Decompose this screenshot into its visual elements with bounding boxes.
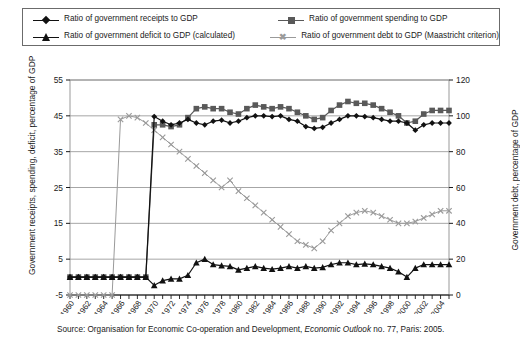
legend-item-spending: Ratio of government spending to GDP [278, 11, 447, 29]
x-tick-label: 1990 [311, 299, 329, 314]
source-note: Source: Organisation for Economic Co-ope… [57, 325, 444, 334]
y-right-tick-label: 120 [456, 75, 470, 85]
source-suffix: no. 77, Paris: 2005. [371, 325, 444, 334]
x-tick-label: 1986 [278, 299, 296, 314]
y-left-tick-labels: -551525354555 [54, 75, 64, 300]
y-left-tick-label: -5 [56, 290, 64, 300]
x-tick-label: 1980 [227, 299, 245, 314]
y-axis-right-title-text: Government debt, percentage of GDP [510, 109, 520, 250]
x-tick-label: 1992 [328, 299, 346, 314]
x-tick-marks [70, 295, 449, 299]
legend-label-debt: Ratio of government debt to GDP (Maastri… [301, 32, 499, 41]
x-tick-label: 2000 [395, 299, 413, 314]
legend-row-2: Ratio of government deficit to GDP (calc… [23, 28, 499, 46]
chart-figure: Ratio of government receipts to GDP Rati… [0, 0, 520, 347]
legend-item-receipts: Ratio of government receipts to GDP [33, 11, 278, 29]
chart-svg: -551525354555 020406080100120 1960196219… [0, 52, 520, 314]
x-tick-label: 1976 [193, 299, 211, 314]
x-tick-label: 1966 [109, 299, 127, 314]
x-tick-label: 1994 [345, 299, 363, 314]
y-right-tick-label: 80 [456, 147, 466, 157]
diamond-marker-icon [33, 15, 59, 25]
legend-label-spending: Ratio of government spending to GDP [309, 15, 447, 24]
y-right-tick-label: 40 [456, 218, 466, 228]
x-tick-label: 1968 [126, 299, 144, 314]
y-left-tick-marks [66, 80, 70, 295]
y-right-tick-label: 20 [456, 254, 466, 264]
y-right-tick-labels: 020406080100120 [456, 75, 470, 300]
y-left-tick-label: 35 [54, 147, 64, 157]
x-tick-label: 1964 [92, 299, 110, 314]
legend-row-1: Ratio of government receipts to GDP Rati… [23, 11, 499, 29]
square-marker-icon [278, 15, 304, 25]
x-tick-labels: 1960196219641966196819701972197419761978… [59, 299, 447, 314]
x-tick-label: 1988 [294, 299, 312, 314]
series-square [67, 99, 452, 280]
y-left-tick-label: 45 [54, 111, 64, 121]
x-marker-icon: ✖ [270, 32, 296, 42]
x-tick-label: 2004 [429, 299, 447, 314]
x-tick-label: 1970 [143, 299, 161, 314]
x-tick-label: 1996 [362, 299, 380, 314]
x-tick-label: 1972 [160, 299, 178, 314]
x-tick-label: 1962 [75, 299, 93, 314]
legend-label-deficit: Ratio of government deficit to GDP (calc… [64, 32, 235, 41]
legend-label-receipts: Ratio of government receipts to GDP [64, 15, 198, 24]
series-diamond [67, 113, 452, 280]
legend-item-deficit: Ratio of government deficit to GDP (calc… [33, 28, 270, 46]
y-axis-right-title: Government debt, percentage of GDP [510, 85, 520, 275]
x-tick-label: 1982 [244, 299, 262, 314]
x-tick-label: 1960 [59, 299, 77, 314]
y-left-tick-label: 15 [54, 218, 64, 228]
y-left-tick-label: 25 [54, 183, 64, 193]
chart-legend: Ratio of government receipts to GDP Rati… [22, 8, 500, 46]
x-tick-label: 1998 [379, 299, 397, 314]
data-series-layer [67, 99, 453, 298]
source-prefix: Source: Organisation for Economic Co-ope… [57, 325, 305, 334]
x-tick-label: 1984 [261, 299, 279, 314]
legend-item-debt: ✖ Ratio of government debt to GDP (Maast… [270, 28, 499, 46]
x-tick-label: 2002 [412, 299, 430, 314]
triangle-marker-icon [33, 32, 59, 42]
y-axis-left-title-text: Government receipts, spending, deficit, … [27, 56, 37, 275]
y-right-tick-label: 60 [456, 183, 466, 193]
y-right-tick-label: 100 [456, 111, 470, 121]
plot-area-wrapper: -551525354555 020406080100120 1960196219… [0, 52, 520, 314]
y-axis-left-title: Government receipts, spending, deficit, … [27, 85, 37, 275]
x-tick-label: 1978 [210, 299, 228, 314]
series-triangle [67, 256, 453, 288]
source-italic: Economic Outlook [305, 325, 371, 334]
y-left-tick-label: 5 [58, 254, 63, 264]
y-right-tick-label: 0 [456, 290, 461, 300]
x-tick-label: 1974 [176, 299, 194, 314]
y-left-tick-label: 55 [54, 75, 64, 85]
